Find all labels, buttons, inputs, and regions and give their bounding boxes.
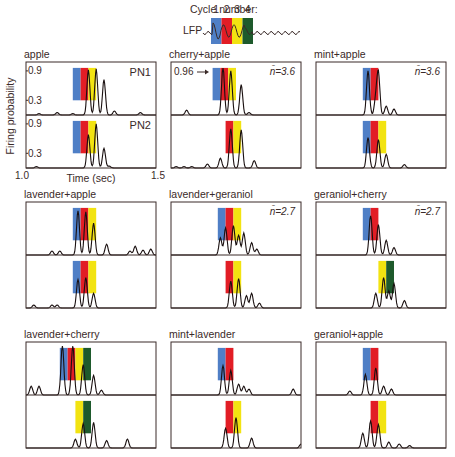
panel-title: lavender+cherry: [24, 328, 100, 340]
neuron-label-pn2: PN2: [130, 119, 151, 131]
cycle-band-2: [226, 401, 234, 433]
panel-lavender-apple: lavender+apple: [24, 188, 156, 308]
panel-title: apple: [24, 48, 50, 60]
x-axis-label: Time (sec): [66, 172, 115, 184]
cycle-band-1: [363, 348, 371, 380]
panel-geraniol-apple: geraniol+apple: [314, 328, 446, 448]
cycle-header: Cycle number: 1234 LFP: [183, 3, 300, 44]
y-tick-label: 0.9: [28, 118, 42, 129]
panel-lavender-cherry: lavender+cherry: [24, 328, 156, 448]
mean-cycles-annotation: n̄=3.6: [270, 65, 296, 77]
panel-mint-lavender: mint+lavender: [169, 328, 301, 448]
y-tick-label: 0.3: [28, 95, 42, 106]
cycle-number-3: 3: [234, 3, 240, 15]
cycle-number-2: 2: [224, 3, 230, 15]
panel-title: geraniol+apple: [314, 328, 383, 340]
cycle-band-3: [88, 261, 96, 293]
panel-lavender-geraniol: lavender+geranioln̄=2.7: [169, 188, 301, 308]
trace-pn1: [171, 366, 301, 395]
mean-cycles-annotation: n̄=2.7: [415, 205, 441, 217]
cycle-band-1: [213, 68, 221, 100]
mean-cycles-annotation: n̄=2.7: [270, 205, 296, 217]
panel-title: geraniol+cherry: [314, 188, 387, 200]
cycle-band-4: [243, 18, 254, 44]
panel-mint-apple: mint+applen̄=3.6: [314, 48, 446, 168]
peak-callout: 0.96: [174, 66, 194, 77]
trace-pn1: [316, 216, 446, 255]
cycle-band-1: [73, 121, 81, 153]
panel-title: cherry+apple: [169, 48, 230, 60]
figure: Cycle number: 1234 LFP Firing probabilit…: [0, 0, 455, 457]
panel-apple: applePN1PN20.90.30.90.31.01.5Time (sec): [15, 48, 165, 184]
panel-title: mint+apple: [314, 48, 366, 60]
panel-title: mint+lavender: [169, 328, 236, 340]
lfp-label: LFP: [183, 24, 202, 36]
cycle-band-3: [232, 18, 243, 44]
cycle-number-1: 1: [213, 3, 219, 15]
cycle-number-4: 4: [245, 3, 251, 15]
x-tick-label: 1.5: [151, 170, 165, 181]
panel-geraniol-cherry: geraniol+cherryn̄=2.7: [314, 188, 446, 308]
callout-arrowhead: [205, 70, 209, 75]
panel-title: lavender+geraniol: [169, 188, 253, 200]
cycle-band-1: [73, 68, 81, 100]
y-tick-label: 0.3: [28, 148, 42, 159]
mean-cycles-annotation: n̄=3.6: [415, 65, 441, 77]
trace-pn1: [316, 368, 446, 395]
y-axis-label: Firing probability: [4, 77, 16, 155]
neuron-label-pn1: PN1: [130, 66, 151, 78]
cycle-band-2: [222, 18, 233, 44]
panel-cherry-apple: cherry+applen̄=3.60.96: [169, 48, 301, 168]
y-tick-label: 0.9: [28, 65, 42, 76]
panel-title: lavender+apple: [24, 188, 96, 200]
x-tick-label: 1.0: [15, 170, 29, 181]
